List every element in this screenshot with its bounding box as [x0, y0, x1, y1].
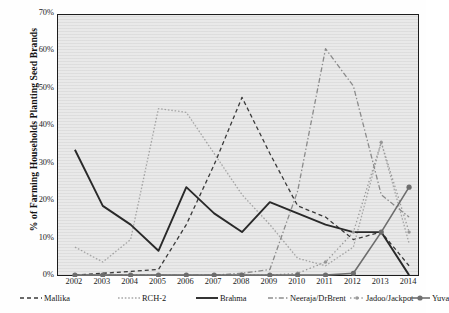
- series-line: [75, 109, 409, 266]
- legend-swatch-icon: [20, 293, 42, 303]
- y-tick-label: 20%: [14, 196, 54, 204]
- series-marker: [351, 271, 356, 276]
- series-neeraja-drbrent: [75, 49, 409, 275]
- legend-item-yuva[interactable]: Yuva: [410, 293, 449, 309]
- legend-swatch-icon: [350, 293, 364, 303]
- y-axis-tick-labels: 0%10%20%30%40%50%60%70%: [8, 0, 54, 313]
- series-line: [75, 150, 409, 275]
- plot-area: [57, 14, 419, 276]
- series-brahma: [75, 150, 409, 275]
- legend-swatch-icon: [196, 293, 218, 303]
- series-canvas: [58, 15, 420, 277]
- series-marker: [379, 229, 384, 234]
- series-marker: [380, 141, 383, 144]
- legend-item-rch-2[interactable]: RCH-2: [118, 293, 166, 309]
- y-tick-label: 40%: [14, 121, 54, 129]
- y-tick-label: 10%: [14, 234, 54, 242]
- y-tick-label: 70%: [14, 9, 54, 17]
- legend-item-mallika[interactable]: Mallika: [20, 293, 70, 309]
- legend-item-jadoo-jackpot[interactable]: Jadoo/Jackpot: [350, 293, 413, 309]
- legend-item-brahma[interactable]: Brahma: [196, 293, 247, 309]
- series-line: [75, 97, 409, 275]
- legend-item-neeraja-drbrent[interactable]: Neeraja/DrBrent: [268, 293, 346, 309]
- series-marker: [407, 230, 410, 233]
- legend-swatch-icon: [118, 293, 140, 303]
- legend-label: Neeraja/DrBrent: [290, 294, 346, 303]
- series-mallika: [75, 97, 409, 275]
- legend-label: Brahma: [220, 294, 247, 303]
- legend-swatch-icon: [268, 293, 288, 303]
- series-jadoo-jackpot: [73, 141, 411, 277]
- legend-label: Mallika: [44, 294, 70, 303]
- y-tick-label: 60%: [14, 46, 54, 54]
- x-axis-tick-labels: 2002200320042005200620072008200920102011…: [0, 277, 426, 293]
- legend-swatch-icon: [410, 293, 430, 303]
- series-line: [75, 142, 409, 275]
- series-marker: [406, 185, 411, 190]
- series-marker: [324, 260, 327, 263]
- series-line: [75, 49, 409, 275]
- y-tick-label: 50%: [14, 84, 54, 92]
- series-rch-2: [75, 109, 409, 266]
- x-tick-label: 2014: [390, 277, 426, 286]
- series-marker: [352, 230, 355, 233]
- legend-label: Jadoo/Jackpot: [366, 294, 413, 303]
- y-tick-label: 30%: [14, 159, 54, 167]
- legend-label: Yuva: [432, 294, 449, 303]
- chart-legend: MallikaRCH-2BrahmaNeeraja/DrBrentJadoo/J…: [0, 293, 426, 313]
- legend-label: RCH-2: [142, 294, 166, 303]
